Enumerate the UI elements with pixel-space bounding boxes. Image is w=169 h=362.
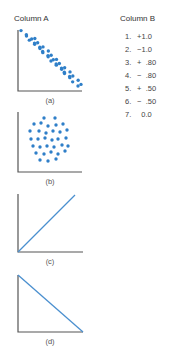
plot-label-d: (d) xyxy=(40,337,60,346)
negative-line xyxy=(18,275,83,332)
line-plot-d-graphic xyxy=(0,0,169,362)
line-plot-d xyxy=(0,0,169,362)
